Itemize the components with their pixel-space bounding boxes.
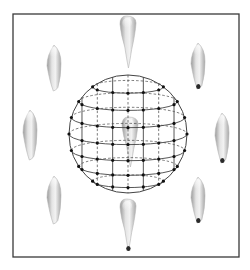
control-point <box>172 168 175 171</box>
tooth-highlight <box>122 18 132 28</box>
control-point <box>77 165 80 168</box>
tooth-upper-right <box>191 43 205 89</box>
control-point <box>157 107 160 110</box>
teeth-layer <box>23 16 229 251</box>
control-point <box>96 88 99 91</box>
control-point <box>80 155 83 158</box>
control-point <box>172 122 175 125</box>
tooth-mid-left <box>23 110 37 160</box>
tooth-highlight <box>49 178 57 188</box>
tooth-center <box>122 117 138 167</box>
control-point <box>157 125 160 128</box>
control-point <box>111 108 114 111</box>
tooth-highlight <box>25 112 33 122</box>
control-point <box>142 143 145 146</box>
control-point <box>142 108 145 111</box>
control-point <box>80 168 83 171</box>
tooth-dark-tip <box>220 158 224 163</box>
control-point <box>70 116 73 119</box>
control-point <box>176 100 179 103</box>
wireframe-sphere <box>67 75 188 193</box>
control-point <box>142 159 145 162</box>
control-point <box>111 159 114 162</box>
control-point <box>70 149 73 152</box>
control-point <box>157 142 160 145</box>
control-point <box>111 143 114 146</box>
tooth-lower-left <box>47 176 61 224</box>
control-point <box>142 91 145 94</box>
tooth-highlight <box>49 47 57 57</box>
control-point <box>176 165 179 168</box>
control-point <box>80 103 83 106</box>
tooth-lower-right <box>191 177 205 223</box>
control-point <box>126 159 129 162</box>
tooth-mid-right <box>215 113 229 163</box>
control-point <box>126 143 129 146</box>
control-point <box>126 92 129 95</box>
tooth-upper-left <box>47 45 61 91</box>
control-point <box>162 85 165 88</box>
control-point <box>126 126 129 129</box>
control-point <box>111 173 114 176</box>
control-point <box>142 185 145 188</box>
tooth-dark-tip <box>126 246 130 251</box>
control-point <box>96 107 99 110</box>
control-point <box>157 183 160 186</box>
tooth-highlight <box>122 201 132 211</box>
control-point <box>67 132 70 135</box>
tooth-bottom <box>120 199 136 251</box>
control-point <box>183 116 186 119</box>
tooth-sphere-figure <box>0 0 250 270</box>
control-point <box>142 173 145 176</box>
control-point <box>142 126 145 129</box>
control-point <box>157 88 160 91</box>
control-point <box>96 142 99 145</box>
control-point <box>172 155 175 158</box>
control-point <box>185 132 188 135</box>
control-point <box>126 174 129 177</box>
control-point <box>126 109 129 112</box>
control-point <box>162 180 165 183</box>
control-point <box>111 91 114 94</box>
control-point <box>111 185 114 188</box>
control-point <box>96 158 99 161</box>
tooth-dark-tip <box>196 218 200 223</box>
control-point <box>91 85 94 88</box>
tooth-highlight <box>193 179 201 189</box>
control-point <box>157 158 160 161</box>
control-point <box>157 172 160 175</box>
control-point <box>172 139 175 142</box>
tooth-highlight <box>193 45 201 55</box>
control-point <box>77 100 80 103</box>
control-point <box>96 172 99 175</box>
tooth-highlight <box>217 115 225 125</box>
control-point <box>80 122 83 125</box>
tooth-top <box>120 16 136 68</box>
control-point <box>80 139 83 142</box>
control-point <box>111 126 114 129</box>
control-point <box>96 125 99 128</box>
control-point <box>126 186 129 189</box>
control-point <box>96 183 99 186</box>
control-point <box>183 149 186 152</box>
control-point <box>91 180 94 183</box>
control-point <box>172 103 175 106</box>
tooth-dark-tip <box>196 84 200 89</box>
figure-canvas <box>0 0 250 270</box>
